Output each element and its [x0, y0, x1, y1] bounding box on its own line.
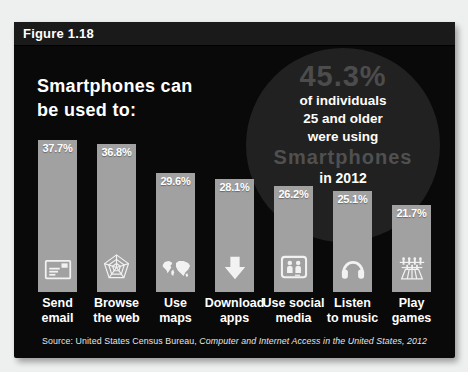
games-icon: [392, 256, 431, 285]
bar-value-label: 28.1%: [215, 181, 254, 193]
bar: 28.1%: [215, 179, 254, 292]
figure-header: Figure 1.18: [14, 22, 455, 46]
bar: 21.7%: [392, 205, 431, 292]
callout-text-line1: of individuals: [246, 92, 440, 110]
bar-category-label: Play games: [377, 296, 447, 326]
callout-percentage: 45.3%: [246, 60, 440, 92]
chart-title: Smartphones can be used to:: [37, 74, 193, 122]
bar: 25.1%: [333, 191, 372, 292]
bar-value-label: 36.8%: [97, 146, 136, 158]
source-line: Source: United States Census Bureau, Com…: [14, 336, 455, 346]
bar-value-label: 37.7%: [38, 142, 77, 154]
figure-panel: Figure 1.18 Smartphones can be used to: …: [14, 22, 455, 358]
bar-value-label: 21.7%: [392, 207, 431, 219]
web-icon: [97, 254, 136, 285]
callout-highlight-word: Smartphones: [246, 146, 440, 169]
bar: 29.6%: [156, 173, 195, 292]
source-prefix: Source: United States Census Bureau,: [42, 336, 199, 346]
callout-text-line2: 25 and older: [246, 110, 440, 128]
maps-icon: [156, 258, 195, 285]
bar-value-label: 26.2%: [274, 188, 313, 200]
bar: 37.7%: [38, 140, 77, 292]
figure-number-label: Figure 1.18: [23, 26, 94, 41]
callout-text-line3: were using: [246, 128, 440, 146]
music-icon: [333, 255, 372, 285]
social-media-icon: [274, 255, 313, 285]
bar-value-label: 29.6%: [156, 175, 195, 187]
email-icon: [38, 258, 77, 285]
bar: 36.8%: [97, 144, 136, 292]
bar-value-label: 25.1%: [333, 193, 372, 205]
chart-title-line1: Smartphones can: [37, 74, 193, 98]
source-citation: Computer and Internet Access in the Unit…: [199, 336, 427, 346]
download-icon: [215, 255, 254, 285]
bar: 26.2%: [274, 186, 313, 292]
chart-title-line2: be used to:: [37, 98, 193, 122]
